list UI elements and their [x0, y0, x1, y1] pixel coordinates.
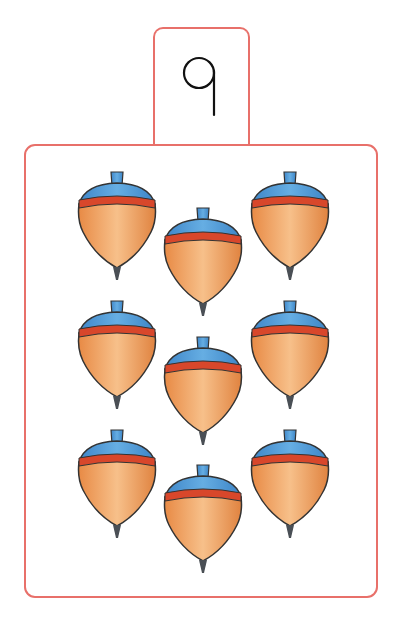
spinning-top-icon [248, 428, 332, 538]
numeral-tab [153, 27, 250, 157]
numeral-nine [155, 45, 248, 139]
spinning-top-icon [161, 335, 245, 445]
spinning-top-icon [75, 299, 159, 409]
spinning-top-icon [75, 428, 159, 538]
spinning-top-icon [75, 170, 159, 280]
spinning-top-icon [248, 170, 332, 280]
spinning-top-icon [161, 206, 245, 316]
spinning-top-icon [161, 463, 245, 573]
numeral-glyph [155, 45, 252, 135]
spinning-top-icon [248, 299, 332, 409]
